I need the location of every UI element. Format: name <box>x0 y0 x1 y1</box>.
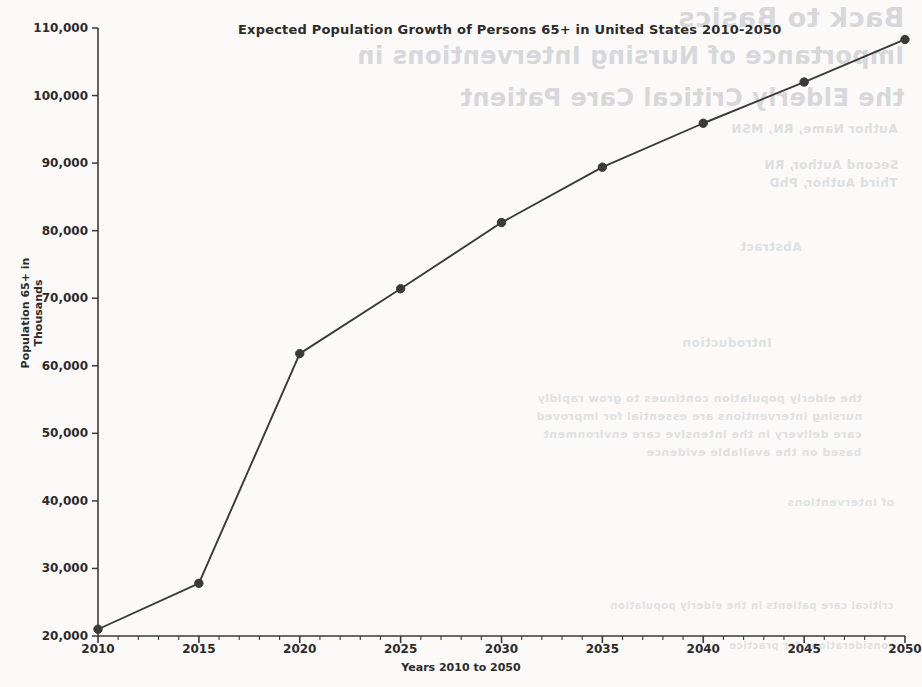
line-chart: Expected Population Growth of Persons 65… <box>0 0 922 687</box>
plot-area <box>0 0 922 687</box>
scanned-page: Back to Basics Importance of Nursing Int… <box>0 0 922 687</box>
